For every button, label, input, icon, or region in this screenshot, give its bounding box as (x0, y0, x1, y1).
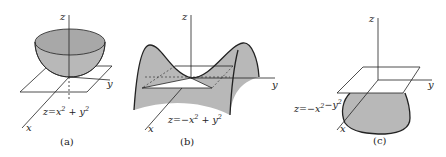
panel-b: z y x z=−x2 + y2 (b) (134, 11, 278, 147)
panel-a: z y x z=x2 + y2 (a) (20, 11, 113, 147)
caption-a: (a) (60, 136, 74, 147)
paraboloid-surface (343, 93, 410, 134)
panel-c: z y x z=−x2−y2 (c) (293, 13, 434, 146)
equation-a: z=x2 + y2 (42, 105, 89, 117)
z-axis-label: z (181, 11, 188, 22)
y-axis-label: y (427, 79, 434, 90)
equation-c: z=−x2−y2 (293, 98, 342, 114)
y-axis-label: y (271, 79, 278, 90)
caption-b: (b) (180, 136, 194, 147)
z-axis-label: z (59, 11, 66, 22)
x-axis-label: x (26, 122, 32, 133)
y-axis-label: y (106, 78, 113, 89)
caption-c: (c) (373, 135, 387, 146)
x-axis-label: x (148, 123, 154, 134)
saddle-surface (134, 43, 259, 115)
equation-b: z=−x2 + y2 (167, 113, 222, 125)
x-axis-label: x (340, 123, 346, 134)
z-axis-label: z (368, 13, 375, 24)
paraboloid-rim (35, 29, 105, 55)
surfaces-figure: z y x z=x2 + y2 (a) z y x z=−x2 + y2 (b) (0, 0, 446, 157)
